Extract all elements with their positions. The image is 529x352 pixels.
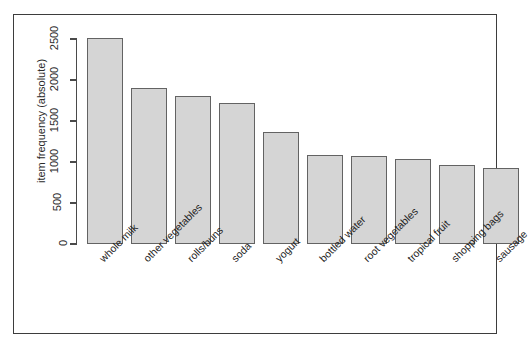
bar xyxy=(131,88,167,244)
bar xyxy=(87,38,123,244)
plot-area: item frequency (absolute) 05001000150020… xyxy=(14,15,498,335)
cropped-header-text xyxy=(0,0,511,12)
bar xyxy=(263,132,299,245)
bar-series xyxy=(14,15,498,335)
bar xyxy=(307,155,343,244)
plot-frame: item frequency (absolute) 05001000150020… xyxy=(13,14,497,334)
bar xyxy=(219,103,255,244)
